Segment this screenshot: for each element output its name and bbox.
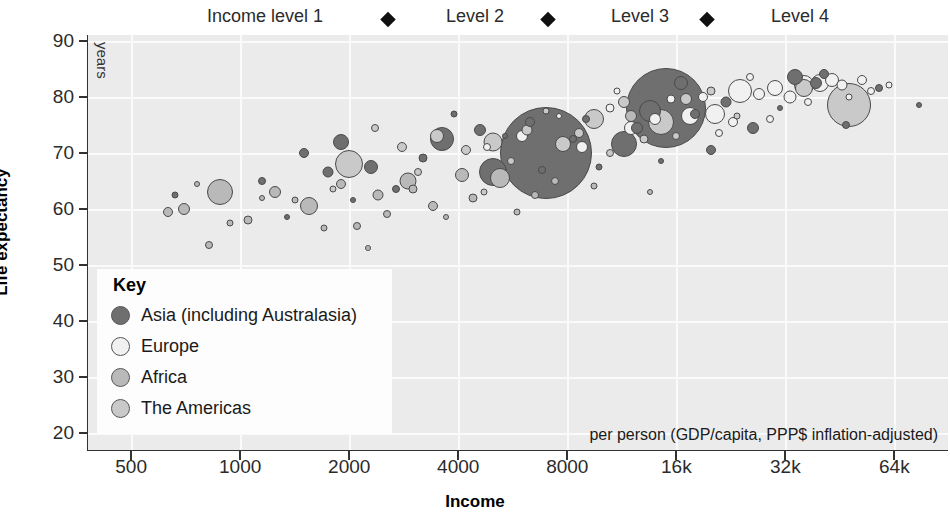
legend-item-label: Asia (including Australasia)	[141, 305, 357, 326]
bubble-point	[469, 193, 478, 202]
y-tick-label: 90	[34, 30, 74, 52]
bubble-point	[335, 150, 363, 178]
bubble-point	[606, 149, 614, 157]
y-tick-mark	[79, 40, 88, 42]
bubble-point	[336, 179, 346, 189]
bubble-point	[243, 216, 252, 225]
y-tick-label: 20	[34, 422, 74, 444]
bubble-point	[372, 189, 383, 200]
bubble-point	[647, 189, 653, 195]
bubble-point	[867, 87, 875, 95]
bubble-point	[409, 185, 418, 194]
bubble-point	[667, 95, 676, 104]
bubble-point	[414, 168, 422, 176]
legend-item-label: The Americas	[141, 398, 251, 419]
bubble-point	[715, 129, 723, 137]
bubble-point	[747, 122, 759, 134]
gridline-horizontal	[88, 41, 948, 43]
x-tick-mark	[675, 451, 677, 460]
bubble-point	[804, 98, 812, 106]
bubble-point	[819, 69, 829, 79]
bubble-point	[163, 207, 173, 217]
y-units-note: years	[94, 42, 111, 79]
bubble-point	[886, 82, 893, 89]
income-level-label-4: Level 4	[771, 6, 829, 27]
bubble-point	[591, 183, 598, 190]
legend-item-1[interactable]: Asia (including Australasia)	[111, 300, 392, 331]
legend-item-label: Africa	[141, 367, 187, 388]
bubble-point	[672, 132, 680, 140]
bubble-point	[787, 69, 803, 85]
legend-item-3[interactable]: Africa	[111, 362, 392, 393]
bubble-point	[269, 186, 281, 198]
income-level-divider-3	[699, 12, 715, 28]
income-level-divider-2	[540, 12, 556, 28]
bubble-point	[323, 167, 334, 178]
bubble-point	[392, 185, 400, 193]
bubble-point	[194, 181, 200, 187]
bubble-point	[767, 80, 783, 96]
legend-swatch-icon	[111, 368, 130, 387]
legend-swatch-icon	[111, 337, 130, 356]
bubble-point	[842, 121, 850, 129]
bubble-point	[259, 195, 265, 201]
bubble-point	[625, 110, 637, 122]
bubble-point	[538, 166, 546, 174]
bubble-point	[443, 214, 449, 220]
bubble-point	[461, 145, 471, 155]
legend: Key Asia (including Australasia)EuropeAf…	[97, 269, 392, 434]
bubble-point	[292, 197, 299, 204]
bubble-point	[690, 109, 700, 119]
bubble-point	[551, 177, 559, 185]
legend-swatch-icon	[111, 306, 130, 325]
bubble-point	[614, 88, 621, 95]
bubble-point	[419, 154, 428, 163]
bubble-point	[569, 135, 577, 143]
bubble-point	[556, 113, 562, 119]
x-tick-mark	[566, 451, 568, 460]
y-tick-mark	[79, 152, 88, 154]
bubble-point	[383, 210, 391, 218]
bubble-point	[680, 93, 692, 105]
y-tick-label: 70	[34, 142, 74, 164]
bubble-point	[706, 145, 716, 155]
income-level-label-3: Level 3	[611, 6, 669, 27]
bubble-point	[333, 134, 349, 150]
bubble-point	[721, 97, 732, 108]
bubble-point	[618, 96, 630, 108]
bubble-point	[397, 142, 407, 152]
x-axis-title: Income	[0, 492, 950, 512]
bubble-point	[543, 107, 550, 114]
legend-item-4[interactable]: The Americas	[111, 393, 392, 424]
bubble-point	[500, 107, 592, 199]
x-tick-mark	[348, 451, 350, 460]
bubble-point	[728, 79, 752, 103]
bubble-point	[766, 115, 774, 123]
bubble-point	[455, 168, 469, 182]
gridline-horizontal	[88, 97, 948, 99]
bubble-point	[227, 219, 234, 226]
bubble-point	[631, 122, 643, 134]
y-tick-label: 30	[34, 366, 74, 388]
bubble-point	[364, 160, 378, 174]
y-tick-label: 40	[34, 310, 74, 332]
income-level-strip: Income level 1Level 2Level 3Level 4	[0, 0, 950, 35]
bubble-point	[784, 90, 797, 103]
legend-item-label: Europe	[141, 336, 199, 357]
bubble-point	[531, 191, 539, 199]
bubble-point	[430, 129, 444, 143]
bubble-point	[371, 124, 379, 132]
bubble-point	[490, 168, 510, 188]
y-tick-mark	[79, 96, 88, 98]
bubble-point	[777, 105, 783, 111]
bubble-point	[329, 186, 336, 193]
bubble-point	[596, 163, 603, 170]
bubble-point	[320, 225, 327, 232]
y-tick-label: 80	[34, 86, 74, 108]
bubble-point	[827, 83, 871, 127]
bubble-point	[299, 148, 309, 158]
y-tick-mark	[79, 432, 88, 434]
legend-item-2[interactable]: Europe	[111, 331, 392, 362]
bubble-point	[837, 80, 848, 91]
bubble-point	[753, 88, 765, 100]
